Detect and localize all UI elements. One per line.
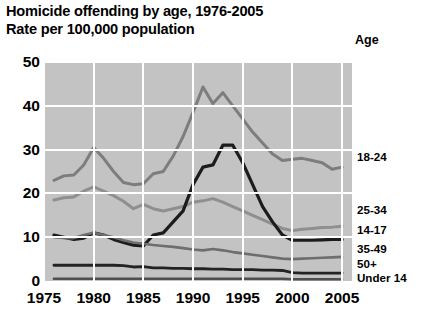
y-axis-tick-label: 40 [4,98,40,114]
series-end-label: 25-34 [357,204,387,216]
gridline-vertical [341,62,343,281]
x-axis-tick-label: 1980 [76,290,110,306]
page-title: Homicide offending by age, 1976-2005 [6,2,263,20]
x-axis-tick-label: 2000 [275,290,309,306]
y-axis-tick-label: 10 [4,229,40,245]
series-end-label: 50+ [357,258,377,270]
plot-area [44,62,352,281]
gridline-horizontal [44,61,352,63]
y-axis-tick-label: 50 [4,54,40,70]
y-axis-tick-label: 20 [4,185,40,201]
homicide-offending-chart: Homicide offending by age, 1976-2005 Rat… [0,0,429,323]
gridline-horizontal [44,149,352,151]
series-end-label: 14-17 [357,224,387,236]
x-axis-tick-labels: 1975198019851990199520002005 [0,286,429,316]
gridline-vertical [192,62,194,281]
y-axis-tick-labels: 01020304050 [0,62,40,281]
series-end-label: 35-49 [357,243,387,255]
x-axis-tick-label: 1995 [225,290,259,306]
gridline-vertical [93,62,95,281]
x-axis-tick-label: 2005 [325,290,359,306]
gridline-horizontal [44,105,352,107]
y-axis-tick-label: 30 [4,142,40,158]
legend-header: Age [355,33,379,47]
gridline-vertical [291,62,293,281]
gridline-vertical [142,62,144,281]
chart-title-block: Homicide offending by age, 1976-2005 Rat… [6,2,263,38]
gridline-horizontal [44,192,352,194]
series-line [54,265,342,273]
gridline-vertical [43,62,45,281]
gridline-horizontal [44,236,352,238]
x-axis-tick-label: 1985 [126,290,160,306]
series-end-label: Under 14 [357,272,407,284]
series-lines [44,62,352,281]
series-end-label: 18-24 [357,151,387,163]
chart-subtitle: Rate per 100,000 population [6,20,263,38]
gridline-vertical [242,62,244,281]
x-axis-tick-label: 1990 [176,290,210,306]
series-line [54,87,342,185]
x-axis-tick-label: 1975 [27,290,61,306]
